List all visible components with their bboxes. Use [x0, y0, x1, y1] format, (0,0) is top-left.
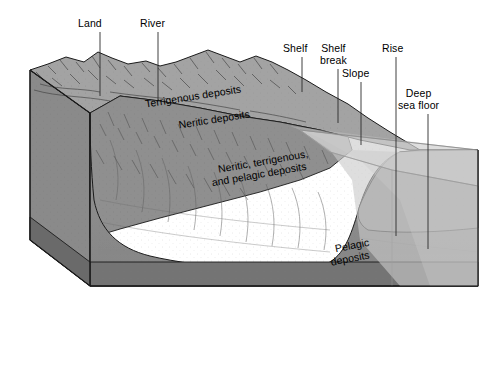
continental-margin-block-diagram — [0, 0, 502, 369]
callout-label-shelf-break: Shelf break — [320, 43, 347, 66]
diagram-canvas: LandRiverShelfShelf breakSlopeRiseDeep s… — [0, 0, 502, 369]
callout-label-river: River — [140, 18, 165, 30]
callout-label-slope: Slope — [342, 68, 369, 80]
callout-label-deep-sea-floor: Deep sea floor — [398, 88, 439, 111]
basement-right-face — [478, 142, 492, 286]
callout-label-land: Land — [78, 18, 102, 30]
callout-label-shelf: Shelf — [283, 43, 307, 55]
callout-label-rise: Rise — [382, 43, 403, 55]
